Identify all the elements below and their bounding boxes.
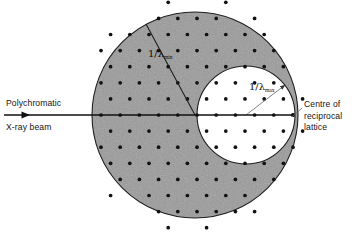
reciprocal-lattice-point — [243, 161, 247, 165]
reciprocal-lattice-point — [224, 194, 228, 198]
reciprocal-lattice-point — [205, 161, 209, 165]
reciprocal-lattice-point — [282, 129, 286, 133]
reciprocal-lattice-point — [195, 81, 199, 85]
reciprocal-lattice-point — [166, 0, 170, 4]
reciprocal-lattice-point — [214, 145, 218, 149]
reciprocal-lattice-point — [138, 145, 142, 149]
lambda-min-prefix: 1/λ — [148, 48, 164, 59]
reciprocal-lattice-point — [234, 81, 238, 85]
reciprocal-lattice-point — [166, 194, 170, 198]
reciprocal-lattice-point — [282, 97, 286, 101]
reciprocal-lattice-point — [224, 33, 228, 37]
reciprocal-lattice-point — [147, 194, 151, 198]
reciprocal-lattice-point — [128, 129, 132, 133]
reciprocal-lattice-point — [147, 129, 151, 133]
reciprocal-lattice-point — [118, 178, 122, 182]
reciprocal-lattice-point — [214, 210, 218, 214]
reciprocal-lattice-point — [109, 129, 113, 133]
reciprocal-lattice-point — [272, 145, 276, 149]
reciprocal-lattice-point — [166, 97, 170, 101]
label-1-over-lambda-max: 1/λmax — [249, 81, 274, 92]
beam-label-line-2: X-ray beam — [6, 122, 51, 134]
reciprocal-lattice-point — [99, 81, 103, 85]
centre-label-line-1: Centre of — [304, 99, 342, 111]
reciprocal-lattice-point — [109, 33, 113, 37]
reciprocal-lattice-point — [176, 178, 180, 182]
reciprocal-lattice-point — [272, 49, 276, 53]
reciprocal-lattice-point — [138, 81, 142, 85]
reciprocal-lattice-point — [186, 65, 190, 69]
reciprocal-lattice-point — [262, 33, 266, 37]
reciprocal-lattice-point — [128, 161, 132, 165]
reciprocal-lattice-point — [109, 97, 113, 101]
reciprocal-lattice-point — [176, 210, 180, 214]
reciprocal-lattice-point — [186, 194, 190, 198]
reciprocal-lattice-point — [99, 49, 103, 53]
reciprocal-lattice-point — [234, 145, 238, 149]
beam-label-line-1: Polychromatic — [6, 98, 61, 110]
reciprocal-lattice-point — [176, 17, 180, 21]
reciprocal-lattice-point — [243, 129, 247, 133]
reciprocal-lattice-point — [157, 17, 161, 21]
reciprocal-lattice-point — [186, 129, 190, 133]
lambda-max-prefix: 1/λ — [249, 81, 265, 92]
reciprocal-lattice-point — [205, 65, 209, 69]
reciprocal-lattice-point — [166, 129, 170, 133]
reciprocal-lattice-point — [195, 17, 199, 21]
reciprocal-lattice-point — [109, 194, 113, 198]
lambda-max-subscript: max — [265, 87, 274, 93]
reciprocal-lattice-point — [176, 145, 180, 149]
lambda-min-subscript: min — [164, 54, 172, 60]
reciprocal-lattice-point — [243, 33, 247, 37]
reciprocal-lattice-point — [291, 145, 295, 149]
reciprocal-lattice-point — [166, 33, 170, 37]
reciprocal-lattice-point — [195, 178, 199, 182]
reciprocal-lattice-point — [253, 49, 257, 53]
reciprocal-lattice-point — [234, 210, 238, 214]
reciprocal-lattice-point — [205, 33, 209, 37]
reciprocal-lattice-point — [138, 178, 142, 182]
reciprocal-lattice-point — [166, 226, 170, 230]
reciprocal-lattice-point — [253, 17, 257, 21]
reciprocal-lattice-point — [157, 81, 161, 85]
centre-label-line-2: reciprocal — [304, 111, 342, 123]
reciprocal-lattice-point — [138, 49, 142, 53]
reciprocal-lattice-point — [224, 161, 228, 165]
reciprocal-lattice-point — [205, 97, 209, 101]
reciprocal-lattice-point — [262, 65, 266, 69]
reciprocal-lattice-point — [205, 194, 209, 198]
reciprocal-lattice-point — [214, 49, 218, 53]
reciprocal-lattice-point — [243, 97, 247, 101]
reciprocal-lattice-point — [195, 49, 199, 53]
reciprocal-lattice-point — [186, 161, 190, 165]
reciprocal-lattice-point — [147, 65, 151, 69]
reciprocal-lattice-point — [234, 178, 238, 182]
reciprocal-lattice-point — [128, 65, 132, 69]
reciprocal-lattice-point — [147, 97, 151, 101]
reciprocal-lattice-point — [147, 161, 151, 165]
reciprocal-lattice-point — [282, 161, 286, 165]
figure-canvas: Polychromatic X-ray beam Centre of recip… — [0, 0, 361, 233]
reciprocal-lattice-point — [109, 161, 113, 165]
reciprocal-lattice-point — [195, 210, 199, 214]
reciprocal-lattice-point — [253, 145, 257, 149]
reciprocal-lattice-point — [234, 49, 238, 53]
reciprocal-lattice-point — [195, 145, 199, 149]
reciprocal-lattice-point — [128, 97, 132, 101]
reciprocal-lattice-point — [224, 97, 228, 101]
reciprocal-lattice-point — [214, 81, 218, 85]
reciprocal-lattice-point — [205, 226, 209, 230]
reciprocal-lattice-point — [99, 145, 103, 149]
reciprocal-lattice-point — [253, 178, 257, 182]
reciprocal-lattice-point — [214, 178, 218, 182]
reciprocal-lattice-point — [243, 65, 247, 69]
reciprocal-lattice-point — [128, 33, 132, 37]
centre-of-reciprocal-lattice-label: Centre of reciprocal lattice — [304, 99, 342, 134]
reciprocal-lattice-point — [109, 65, 113, 69]
reciprocal-lattice-point — [214, 17, 218, 21]
reciprocal-lattice-point — [118, 49, 122, 53]
reciprocal-lattice-point — [272, 178, 276, 182]
reciprocal-lattice-point — [118, 145, 122, 149]
reciprocal-lattice-point — [243, 194, 247, 198]
reciprocal-lattice-point — [157, 145, 161, 149]
